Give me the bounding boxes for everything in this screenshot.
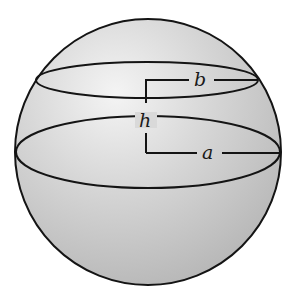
label-a: a [202,141,213,163]
label-h: h [139,109,151,131]
label-b: b [194,68,206,90]
sphere-diagram: b h a [0,0,289,295]
